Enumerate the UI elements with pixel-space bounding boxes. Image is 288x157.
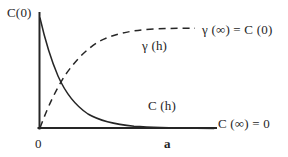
variogram-curve <box>40 28 195 128</box>
x-tick-label-a: a <box>164 137 171 150</box>
y-axis-max-label: C(0) <box>7 6 32 19</box>
variogram-curve-label: γ (h) <box>142 39 167 52</box>
variogram-sill-label: γ (∞) = C (0) <box>202 23 272 36</box>
covariance-limit-label: C (∞) = 0 <box>218 117 270 130</box>
x-tick-label-origin: 0 <box>35 137 42 150</box>
covariance-curve-label: C (h) <box>148 99 176 112</box>
covariance-variogram-figure: C(0) γ (∞) = C (0) γ (h) C (h) C (∞) = 0… <box>0 0 288 157</box>
